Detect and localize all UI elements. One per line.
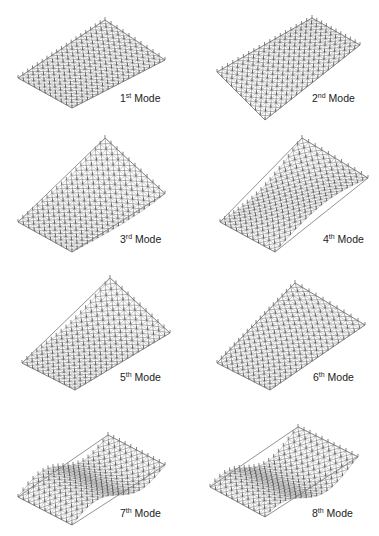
mode-label-1: 1st Mode (120, 92, 160, 104)
mode-label-8: 8th Mode (312, 507, 353, 519)
mode-label-7: 7th Mode (120, 507, 161, 519)
mode-panel-5: 5th Mode (0, 265, 189, 400)
mesh-plot-2 (190, 0, 379, 130)
mode-panel-6: 6th Mode (190, 265, 379, 400)
mode-label-5: 5th Mode (120, 371, 161, 383)
mode-label-3: 3rd Mode (120, 233, 161, 245)
mesh-plot-1 (0, 0, 189, 130)
mode-panel-7: 7th Mode (0, 400, 189, 536)
mode-panel-1: 1st Mode (0, 0, 189, 130)
mode-panel-2: 2nd Mode (190, 0, 379, 130)
mode-label-6: 6th Mode (313, 371, 354, 383)
mode-label-4: 4th Mode (323, 233, 364, 245)
mode-panel-3: 3rd Mode (0, 130, 189, 265)
mode-label-2: 2nd Mode (312, 92, 355, 104)
mode-panel-8: 8th Mode (190, 400, 379, 536)
mode-panel-4: 4th Mode (190, 130, 379, 265)
